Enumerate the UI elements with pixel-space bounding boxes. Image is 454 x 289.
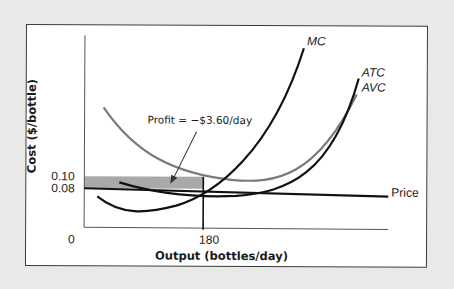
chart-plot xyxy=(26,25,427,267)
price-label: Price xyxy=(391,186,418,200)
x-tick-0: 0 xyxy=(68,232,75,246)
loss-area xyxy=(84,176,203,189)
avc-label: AVC xyxy=(362,80,386,94)
y-axis-title: Cost ($/bottle) xyxy=(24,79,38,173)
mc-label: MC xyxy=(307,34,326,48)
x-axis xyxy=(84,227,388,229)
x-axis-title: Output (bottles/day) xyxy=(155,249,288,264)
y-axis xyxy=(84,35,85,227)
x-tick-180: 180 xyxy=(199,233,219,247)
atc-curve xyxy=(103,93,356,181)
chart-frame: MC ATC AVC Price Profit = −$3.60/day 0.1… xyxy=(25,24,428,268)
y-tick-008: 0.08 xyxy=(51,181,74,195)
profit-annotation: Profit = −$3.60/day xyxy=(148,114,253,126)
atc-label: ATC xyxy=(362,65,385,79)
